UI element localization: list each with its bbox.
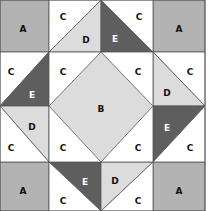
label-e-bottom: E (82, 177, 88, 187)
label-c-bottom-1: C (60, 196, 67, 206)
label-a-top-right: A (176, 24, 183, 34)
label-e-top: E (112, 34, 118, 44)
label-e-right: E (164, 123, 170, 133)
label-c-center-br: C (135, 143, 142, 153)
label-d-top: D (82, 35, 89, 45)
label-c-left-2: C (8, 143, 15, 153)
label-d-bottom: D (111, 176, 118, 186)
label-c-right-2: C (187, 143, 194, 153)
label-a-bottom-right: A (176, 186, 183, 196)
label-c-left-1: C (8, 67, 15, 77)
label-d-right: D (163, 88, 170, 98)
quilt-block-diagram: A A A A C D E C C E D C C C B C C C D E … (0, 0, 209, 211)
label-e-left: E (29, 90, 35, 100)
label-c-center-tl: C (60, 67, 67, 77)
label-b-center: B (98, 104, 105, 114)
label-c-center-bl: C (60, 143, 67, 153)
label-a-bottom-left: A (20, 186, 27, 196)
label-c-top-2: C (136, 12, 143, 22)
label-d-left: D (28, 122, 35, 132)
label-c-right-1: C (187, 67, 194, 77)
label-c-bottom-2: C (135, 196, 142, 206)
label-a-top-left: A (20, 24, 27, 34)
label-c-center-tr: C (135, 67, 142, 77)
label-c-top-1: C (60, 12, 67, 22)
